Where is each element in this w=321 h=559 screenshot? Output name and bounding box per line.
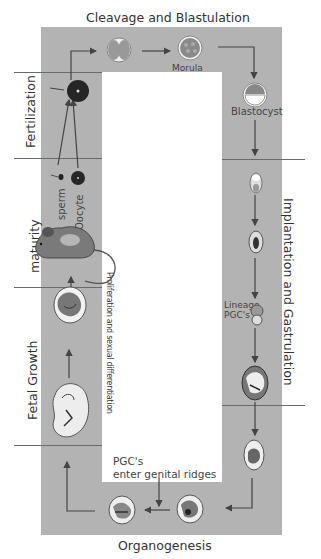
cycle-graphics xyxy=(0,0,321,559)
organogenesis-embryo-right-icon xyxy=(177,495,203,523)
sperm-icon xyxy=(51,174,64,180)
gastrula-icon xyxy=(242,366,268,400)
oocyte-icon xyxy=(71,171,85,185)
two-cell-embryo-icon xyxy=(107,38,131,62)
blastocyst-icon xyxy=(243,83,267,107)
lineage-pgc-embryo-icon xyxy=(251,305,263,325)
implantation-stage-2-icon xyxy=(249,231,263,253)
fertilized-egg-icon xyxy=(67,80,89,102)
early-embryo-icon xyxy=(244,440,264,470)
organogenesis-embryo-left-icon xyxy=(109,496,135,524)
fetus-icon xyxy=(54,287,86,323)
adult-mouse-icon xyxy=(36,227,115,284)
embryo-icon xyxy=(53,384,89,437)
morula-icon xyxy=(178,36,202,60)
implantation-stage-1-icon xyxy=(250,173,262,193)
